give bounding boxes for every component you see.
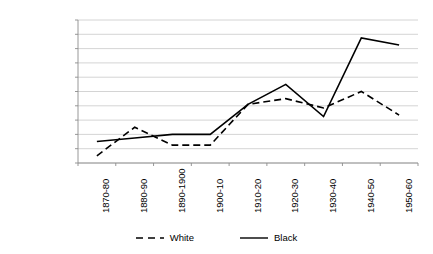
legend-label-white: White <box>170 233 194 243</box>
x-axis-tick-label: 1870-80 <box>101 179 111 213</box>
legend-label-black: Black <box>274 233 297 243</box>
x-axis-tick-label: 1940-50 <box>366 179 376 213</box>
chart-legend: White Black <box>0 230 433 246</box>
x-axis-tick-label: 1920-30 <box>290 179 300 213</box>
x-axis-tick-label: 1890-1900 <box>177 168 187 213</box>
x-axis-tick-label: 1880-90 <box>139 179 149 213</box>
x-axis-tick-labels: 1870-801880-901890-19001900-101910-20192… <box>0 0 433 254</box>
x-axis-tick-label: 1900-10 <box>215 179 225 213</box>
legend-item-white: White <box>136 233 194 243</box>
line-chart: 1,800,0001,600,0001,400,0001,200,0001,00… <box>0 0 433 254</box>
legend-item-black: Black <box>240 233 297 243</box>
x-axis-tick-label: 1930-40 <box>328 179 338 213</box>
x-axis-tick-label: 1950-60 <box>404 179 414 213</box>
legend-swatch-solid-icon <box>240 234 268 242</box>
legend-swatch-dashed-icon <box>136 234 164 242</box>
x-axis-tick-label: 1910-20 <box>253 179 263 213</box>
